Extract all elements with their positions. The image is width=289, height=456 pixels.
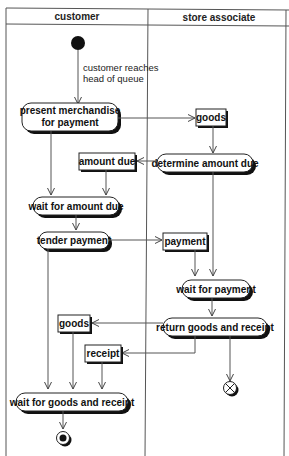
object-amount-due: amount due: [79, 153, 137, 172]
lane-title-customer: customer: [54, 11, 99, 22]
activity-final-node: [57, 432, 72, 447]
flow-final-node: [224, 382, 239, 397]
guard-label-line2: head of queue: [83, 73, 144, 84]
svg-text:wait for payment: wait for payment: [175, 284, 256, 295]
svg-text:present merchandise: present merchandise: [20, 105, 121, 116]
svg-text:receipt: receipt: [87, 348, 120, 359]
svg-text:determine amount due: determine amount due: [151, 158, 259, 169]
svg-text:payment: payment: [164, 236, 206, 247]
action-wait-for-goods-and-receipt: wait for goods and receipt: [9, 393, 135, 414]
object-payment: payment: [163, 233, 209, 252]
object-goods-store: goods: [196, 109, 228, 128]
svg-text:wait for goods and receipt: wait for goods and receipt: [9, 397, 135, 408]
initial-node: [71, 36, 85, 50]
svg-text:goods: goods: [196, 112, 226, 123]
guard-label: customer reaches: [83, 62, 159, 73]
action-wait-for-payment: wait for payment: [175, 280, 256, 301]
svg-text:amount due: amount due: [79, 156, 136, 167]
svg-text:wait for amount due: wait for amount due: [28, 201, 124, 212]
activity-diagram: customer store associate customer reache…: [0, 0, 289, 456]
svg-text:for payment: for payment: [41, 117, 99, 128]
svg-text:return goods and receipt: return goods and receipt: [156, 322, 274, 333]
object-receipt: receipt: [85, 345, 123, 364]
svg-text:tender payment: tender payment: [37, 235, 112, 246]
object-goods-customer: goods: [58, 315, 92, 334]
lane-title-store-associate: store associate: [183, 12, 256, 23]
action-wait-for-amount-due: wait for amount due: [28, 197, 124, 218]
svg-text:goods: goods: [59, 318, 89, 329]
action-determine-amount-due: determine amount due: [151, 154, 259, 175]
action-present-merchandise: present merchandise for payment: [20, 103, 121, 134]
action-return-goods-and-receipt: return goods and receipt: [156, 318, 274, 339]
